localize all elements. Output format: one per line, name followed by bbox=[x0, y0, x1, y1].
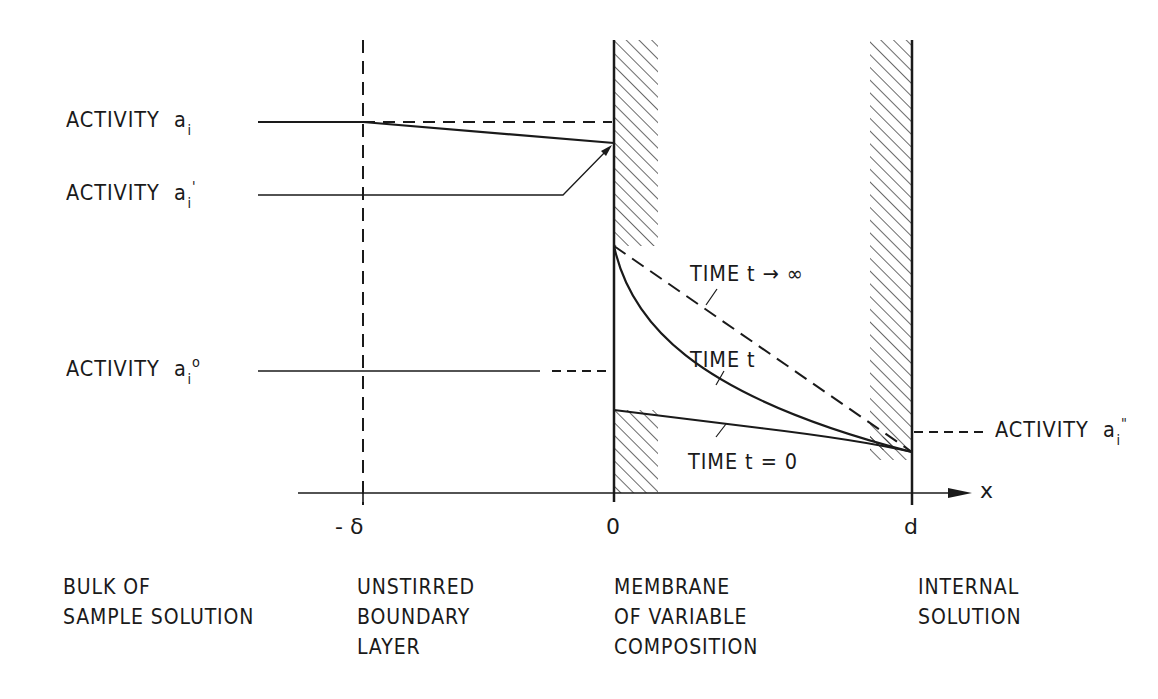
label-superscript: ' bbox=[192, 178, 196, 194]
x-axis-label: x bbox=[980, 478, 993, 503]
region-boundary-layer: UNSTIRRED BOUNDARY LAYER bbox=[357, 572, 475, 662]
region-line: UNSTIRRED bbox=[357, 572, 475, 602]
leader-activity-boundary bbox=[258, 150, 607, 195]
label-activity-internal: ACTIVITY ai" bbox=[995, 418, 1128, 442]
label-text: ACTIVITY bbox=[66, 357, 160, 381]
label-superscript: " bbox=[1121, 415, 1128, 431]
label-symbol: a bbox=[174, 108, 187, 132]
label-activity-bulk: ACTIVITY ai bbox=[66, 108, 192, 132]
label-activity-surface: ACTIVITY aio bbox=[66, 357, 201, 381]
tick-zero: 0 bbox=[606, 514, 620, 539]
tick-minus-delta: - δ bbox=[335, 514, 363, 539]
label-time-t: TIME t bbox=[690, 348, 756, 372]
label-activity-boundary: ACTIVITY ai' bbox=[66, 181, 197, 205]
region-membrane: MEMBRANE OF VARIABLE COMPOSITION bbox=[614, 572, 758, 662]
label-symbol: a bbox=[174, 357, 187, 381]
region-line: SOLUTION bbox=[918, 602, 1022, 632]
label-subscript: i bbox=[188, 122, 192, 138]
label-text: ACTIVITY bbox=[995, 418, 1089, 442]
region-line: INTERNAL bbox=[918, 572, 1022, 602]
boundary-layer-gradient bbox=[363, 122, 614, 143]
label-time-zero: TIME t = 0 bbox=[688, 450, 798, 474]
label-superscript: o bbox=[192, 354, 201, 370]
region-line: COMPOSITION bbox=[614, 632, 758, 662]
region-line: OF VARIABLE bbox=[614, 602, 758, 632]
tick-d: d bbox=[904, 514, 918, 539]
region-line: BOUNDARY bbox=[357, 602, 475, 632]
label-subscript: i bbox=[188, 371, 192, 387]
region-bulk-solution: BULK OF SAMPLE SOLUTION bbox=[63, 572, 254, 632]
region-internal-solution: INTERNAL SOLUTION bbox=[918, 572, 1022, 632]
label-symbol: a bbox=[1103, 418, 1116, 442]
label-text: ACTIVITY bbox=[66, 108, 160, 132]
label-text: ACTIVITY bbox=[66, 181, 160, 205]
label-symbol: a bbox=[174, 181, 187, 205]
curve-t-zero bbox=[614, 410, 912, 452]
label-subscript: i bbox=[188, 195, 192, 211]
region-line: SAMPLE SOLUTION bbox=[63, 602, 254, 632]
region-line: BULK OF bbox=[63, 572, 254, 602]
label-time-infinity: TIME t → ∞ bbox=[690, 262, 804, 286]
region-line: LAYER bbox=[357, 632, 475, 662]
label-subscript: i bbox=[1117, 432, 1121, 448]
region-line: MEMBRANE bbox=[614, 572, 758, 602]
